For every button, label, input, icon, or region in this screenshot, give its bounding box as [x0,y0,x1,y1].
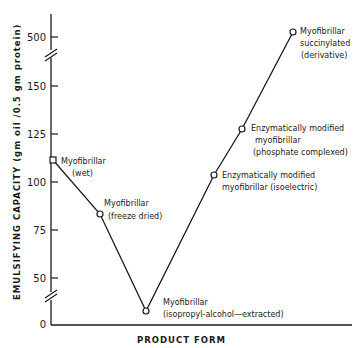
marker-freeze-dried [97,211,103,217]
svg-text:Enzymatically modified: Enzymatically modified [222,171,315,180]
svg-text:Myofibrillar: Myofibrillar [104,199,150,208]
label-freeze-dried: Myofibrillar (freeze dried) [104,199,162,221]
emulsifying-capacity-chart: 500 150 125 100 75 50 0 EMULSIFYING CAPA… [0,0,357,348]
y-tick-0: 0 [40,319,46,330]
svg-text:Myofibrillar: Myofibrillar [61,157,107,166]
y-tick-125: 125 [27,129,46,140]
y-tick-100: 100 [27,177,46,188]
label-succinylated: Myofibrillar succinylated (derivative) [300,27,350,60]
y-tick-150: 150 [27,81,46,92]
svg-text:(freeze dried): (freeze dried) [108,212,162,221]
x-axis-title: PRODUCT FORM [137,335,226,345]
svg-text:Enzymatically modified: Enzymatically modified [251,124,344,133]
svg-text:myofibrillar: myofibrillar [255,136,301,145]
label-phosphate: Enzymatically modified myofibrillar (pho… [251,124,348,157]
svg-text:(derivative): (derivative) [301,51,347,60]
svg-text:(isopropyl-alcohol—extracted): (isopropyl-alcohol—extracted) [163,310,284,319]
y-axis-title: EMULSIFYING CAPACITY (gm oil /0.5 gm pro… [12,24,22,300]
svg-text:(wet): (wet) [72,169,93,178]
svg-text:Myofibrillar: Myofibrillar [163,298,209,307]
svg-text:succinylated: succinylated [300,39,350,48]
label-isopropyl: Myofibrillar (isopropyl-alcohol—extracte… [163,298,284,319]
marker-phosphate [239,126,245,132]
y-tick-50: 50 [33,273,46,284]
y-tick-labels: 500 150 125 100 75 50 0 [27,32,46,330]
svg-text:myofibrillar (isoelectric): myofibrillar (isoelectric) [222,183,317,192]
svg-text:Myofibrillar: Myofibrillar [300,27,346,36]
marker-wet [50,157,56,163]
marker-isopropyl [143,308,149,314]
marker-isoelectric [211,172,217,178]
label-wet: Myofibrillar (wet) [61,157,107,178]
label-isoelectric: Enzymatically modified myofibrillar (iso… [222,171,317,192]
svg-text:(phosphate complexed): (phosphate complexed) [253,148,348,157]
y-tick-500: 500 [27,32,46,43]
y-tick-75: 75 [33,225,46,236]
marker-succinylated [290,29,296,35]
